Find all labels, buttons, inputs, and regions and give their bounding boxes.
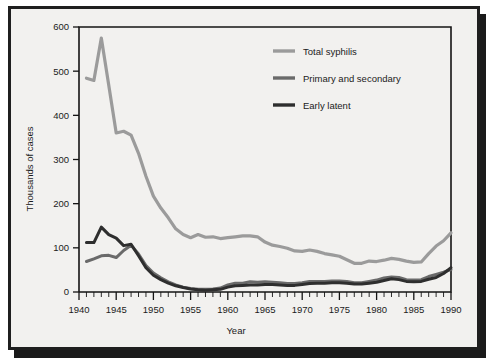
y-tick-label: 200 xyxy=(53,198,69,209)
x-tick-label: 1980 xyxy=(366,304,387,315)
figure-border-frame: 0100200300400500600 19401945195019551960… xyxy=(8,6,480,350)
x-tick-label: 1970 xyxy=(292,304,313,315)
y-axis-title: Thousands of cases xyxy=(24,126,35,211)
x-tick-label: 1945 xyxy=(106,304,127,315)
y-tick-label: 400 xyxy=(53,110,69,121)
x-axis-title: Year xyxy=(226,325,245,336)
y-tick-label: 100 xyxy=(53,242,69,253)
y-tick-label: 600 xyxy=(53,21,69,32)
figure-root: 0100200300400500600 19401945195019551960… xyxy=(0,0,494,364)
x-tick-label: 1965 xyxy=(254,304,275,315)
legend-label-3: Early latent xyxy=(303,100,351,111)
syphilis-cases-line-chart: 0100200300400500600 19401945195019551960… xyxy=(11,9,477,347)
chart-legend: Total syphilisPrimary and secondaryEarly… xyxy=(273,46,401,111)
y-tick-label: 300 xyxy=(53,154,69,165)
series-line-primary-and-secondary xyxy=(86,245,451,289)
x-tick-label: 1955 xyxy=(180,304,201,315)
legend-label-2: Primary and secondary xyxy=(303,73,401,84)
x-tick-label: 1975 xyxy=(329,304,350,315)
x-tick-label: 1960 xyxy=(217,304,238,315)
x-axis-ticks xyxy=(79,292,451,300)
figure-plate: 0100200300400500600 19401945195019551960… xyxy=(11,9,477,347)
y-axis-ticks xyxy=(73,27,79,292)
y-tick-label: 0 xyxy=(64,286,69,297)
x-tick-label: 1990 xyxy=(440,304,461,315)
y-axis-tick-labels: 0100200300400500600 xyxy=(53,21,69,297)
x-tick-label: 1985 xyxy=(403,304,424,315)
y-tick-label: 500 xyxy=(53,66,69,77)
x-tick-label: 1950 xyxy=(143,304,164,315)
x-tick-label: 1940 xyxy=(68,304,89,315)
legend-label-1: Total syphilis xyxy=(303,46,357,57)
x-axis-tick-labels: 1940194519501955196019651970197519801985… xyxy=(68,304,461,315)
